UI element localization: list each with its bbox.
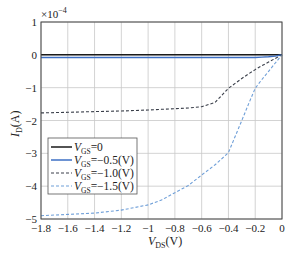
x-tick-label: −1.6 [58,222,78,234]
x-axis-label: VDS(V) [148,234,182,250]
chart: −1.8−1.6−1.4−1.2−1−0.8−0.6−0.4−0.20 10−1… [0,0,294,257]
y-tick-label: −1 [25,82,37,94]
y-tick-label: −5 [25,213,37,225]
x-tick-label: 0 [279,222,285,234]
x-tick-label: −1.4 [85,222,105,234]
y-axis-label: ID(A) [8,111,24,138]
legend: VGS=0VGS=−0.5(V)VGS=−1.0(V)VGS=−1.5(V) [48,138,137,195]
y-tick-label: −2 [25,115,37,127]
x-tick-label: −0.2 [245,222,265,234]
y-tick-label: −4 [25,180,37,192]
x-axis-ticks: −1.8−1.6−1.4−1.2−1−0.8−0.6−0.4−0.20 [31,222,285,234]
y-tick-label: 0 [32,49,38,61]
x-tick-label: −1.2 [111,222,131,234]
y-tick-label: −3 [25,147,37,159]
y-axis-ticks: 10−1−2−3−4−5 [25,16,37,225]
x-tick-label: −1 [142,222,154,234]
x-tick-label: −0.6 [192,222,212,234]
x-tick-label: −0.8 [165,222,185,234]
y-multiplier: ×10−4 [41,6,67,20]
y-tick-label: 1 [32,16,38,28]
x-tick-label: −0.4 [218,222,238,234]
series-line [41,55,282,113]
